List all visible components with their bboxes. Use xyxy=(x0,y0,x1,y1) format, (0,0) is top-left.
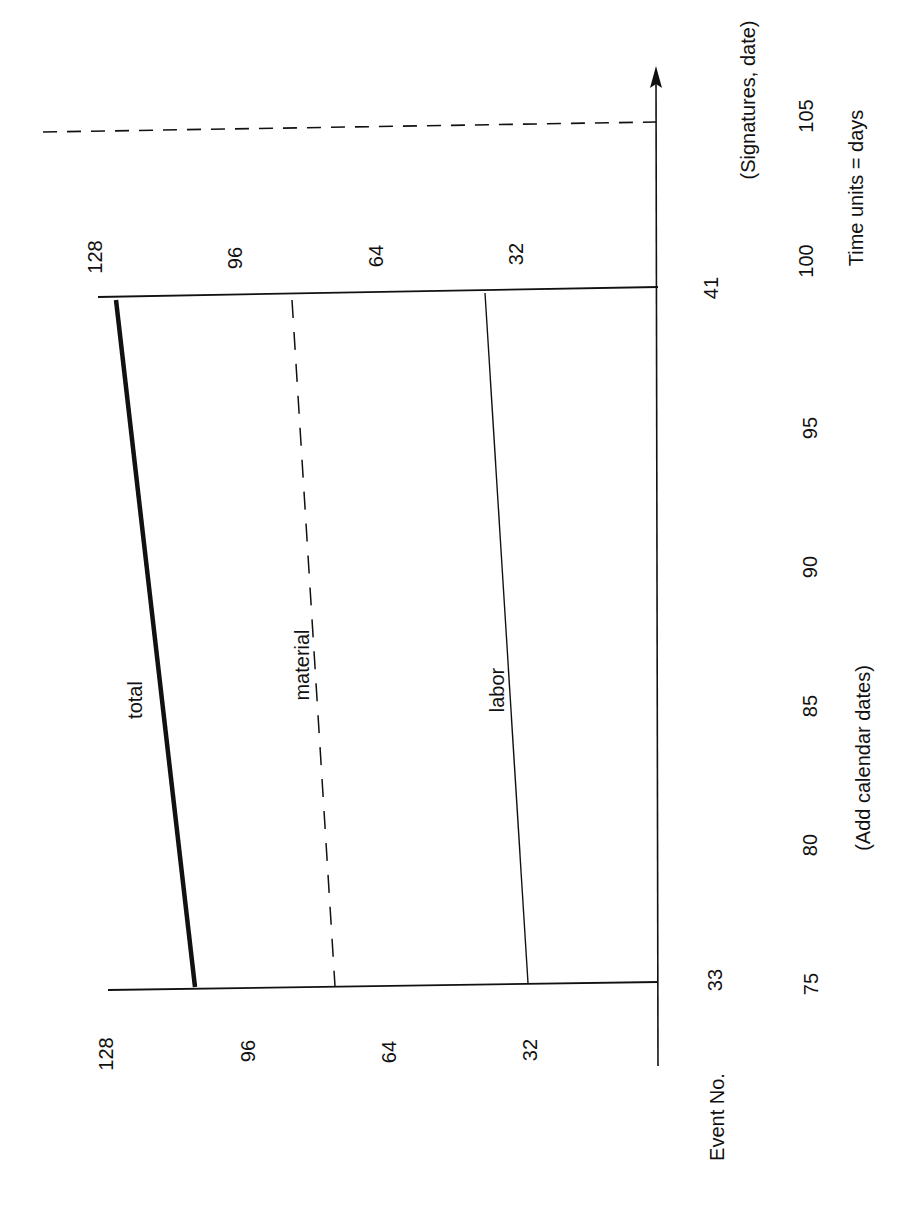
event-33-line xyxy=(108,982,658,990)
time-tick-95: 95 xyxy=(799,417,822,439)
tick-top-96: 96 xyxy=(224,247,247,269)
signatures-dashed-line xyxy=(43,122,656,132)
time-units-label: Time units = days xyxy=(845,110,868,267)
time-tick-105: 105 xyxy=(795,99,818,132)
tick-bottom-32: 32 xyxy=(519,1039,542,1061)
event-no-label: Event No. xyxy=(706,1073,729,1161)
tick-bottom-64: 64 xyxy=(378,1041,401,1063)
label-material: material xyxy=(291,629,314,700)
tick-bottom-128: 128 xyxy=(95,1037,118,1070)
signatures-date-note: (Signatures, date) xyxy=(737,21,760,180)
tick-top-128: 128 xyxy=(84,240,107,273)
add-calendar-dates-note: (Add calendar dates) xyxy=(852,665,875,851)
time-tick-80: 80 xyxy=(799,834,822,856)
time-tick-85: 85 xyxy=(799,695,822,717)
time-axis xyxy=(656,78,658,1066)
chart-canvas xyxy=(0,0,919,1218)
event-41-line xyxy=(98,287,658,297)
event-end: 41 xyxy=(700,277,723,299)
time-tick-100: 100 xyxy=(795,244,818,277)
event-start: 33 xyxy=(704,969,727,991)
time-tick-90: 90 xyxy=(799,556,822,578)
tick-bottom-96: 96 xyxy=(237,1040,260,1062)
label-labor: labor xyxy=(486,668,509,712)
label-total: total xyxy=(124,681,147,719)
time-tick-75: 75 xyxy=(800,973,823,995)
tick-top-64: 64 xyxy=(365,245,388,267)
tick-top-32: 32 xyxy=(505,243,528,265)
series-total-line xyxy=(116,300,195,987)
series-labor-line xyxy=(485,293,528,983)
